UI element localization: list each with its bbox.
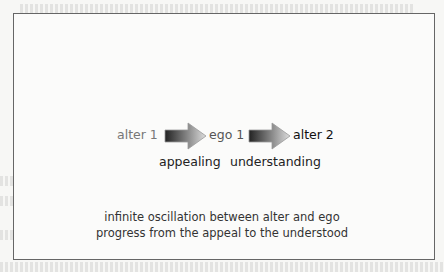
- edge-label-understanding: understanding: [230, 154, 321, 169]
- bleed-through-text: [0, 262, 444, 272]
- node-alter-2: alter 2: [293, 127, 334, 142]
- flow-row: alter 1 ego 1 alter 2: [0, 122, 444, 148]
- node-alter-1: alter 1: [117, 127, 158, 142]
- edge-label-appealing: appealing: [159, 154, 221, 169]
- arrow-right-icon: [248, 122, 292, 150]
- node-ego-1: ego 1: [209, 127, 244, 142]
- arrow-right-icon: [164, 122, 208, 150]
- caption-line-2: progress from the appeal to the understo…: [0, 226, 444, 240]
- caption-line-1: infinite oscillation between alter and e…: [0, 210, 444, 224]
